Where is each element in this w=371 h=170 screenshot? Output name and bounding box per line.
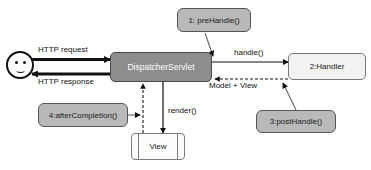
smiley-mouth-icon — [15, 66, 26, 73]
node-pre-handle[interactable]: 1: preHandle() — [177, 8, 251, 32]
node-view-label: View — [149, 142, 166, 151]
smiley-eye-left-icon — [15, 61, 18, 64]
edge-label-model-view: Model + View — [209, 81, 257, 90]
node-view[interactable]: View — [131, 133, 185, 160]
edge-label-http-request: HTTP request — [38, 45, 88, 54]
view-bar-left — [138, 134, 139, 159]
actor-smiley-icon — [6, 51, 34, 79]
edge-label-handle: handle() — [234, 48, 263, 57]
node-after-completion[interactable]: 4:afterCompletion() — [38, 103, 128, 127]
view-bar-right — [177, 134, 178, 159]
node-post-handle[interactable]: 3:postHandle() — [256, 110, 336, 133]
smiley-eye-right-icon — [23, 61, 26, 64]
edge-label-render: render() — [168, 106, 196, 115]
diagram-canvas: DispatcherServlet 1: preHandle() 2:Handl… — [0, 0, 371, 170]
edge-label-http-response: HTTP response — [38, 77, 94, 86]
node-handler[interactable]: 2:Handler — [288, 53, 366, 80]
node-dispatcher-servlet[interactable]: DispatcherServlet — [110, 52, 212, 82]
connector-post-handle-link — [283, 83, 296, 110]
